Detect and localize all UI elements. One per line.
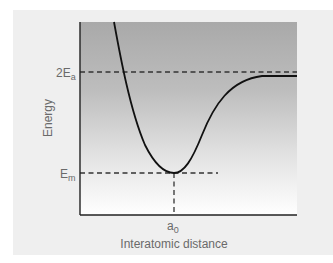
y-tick-label-em: Em bbox=[60, 167, 76, 183]
energy-chart: 2Ea Em a0 Interatomic distance Energy bbox=[0, 0, 333, 263]
plot-area bbox=[80, 22, 297, 215]
x-axis-title: Interatomic distance bbox=[120, 237, 228, 251]
x-tick-label-a0: a0 bbox=[167, 219, 179, 235]
y-tick-label-2ea: 2Ea bbox=[56, 66, 76, 82]
y-axis-title: Energy bbox=[41, 99, 55, 137]
